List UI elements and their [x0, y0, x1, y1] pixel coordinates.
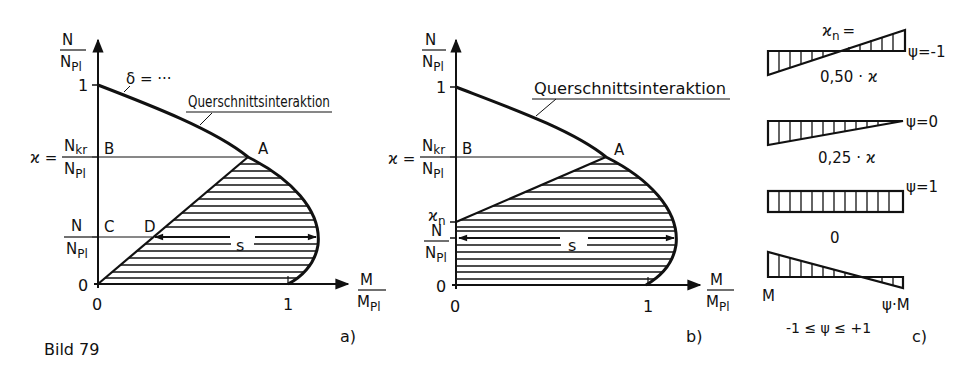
panel-b-n-label-num: N	[431, 222, 442, 240]
panel-b: s Querschnittsinteraktion N NPl 1 0 0 1 …	[388, 31, 734, 346]
point-a-D: D	[144, 218, 156, 236]
panel-a-kappa-lhs: ϰ =	[30, 149, 57, 167]
panel-a-delta-label: δ = ···	[126, 70, 172, 88]
panel-b-interaction-curve	[456, 87, 676, 285]
psi-minus-1-label: ψ=-1	[908, 43, 945, 61]
moment-diagram-psi-1	[768, 191, 903, 212]
panel-a-x-tick-1: 1	[283, 295, 293, 314]
kappa-n-value-1: 0,50 · ϰ	[820, 68, 878, 86]
panel-a-x-label-num: M	[360, 271, 373, 289]
panel-a-x-label-den: MPl	[357, 293, 381, 314]
panel-a-kappa-num: Nkr	[64, 137, 87, 157]
panel-b-y-label-num: N	[425, 31, 436, 49]
kappa-n-label: ϰn=	[822, 22, 855, 43]
panel-b-y-label-den: NPl	[422, 53, 444, 74]
panel-b-label: b)	[686, 327, 702, 346]
figure-caption: Bild 79	[44, 340, 99, 359]
panel-b-kappa-lhs: ϰ =	[388, 150, 415, 168]
panel-b-s-label: s	[568, 236, 576, 255]
psi-1-label: ψ=1	[906, 178, 938, 196]
moment-right-label: ψ·M	[882, 296, 910, 314]
panel-a-n-label-num: N	[71, 217, 82, 235]
panel-c-label: c)	[912, 327, 927, 346]
panel-b-hatching	[450, 164, 700, 279]
kappa-n-value-3: 0	[830, 229, 840, 247]
panel-b-kappa-num: Nkr	[422, 137, 445, 157]
panel-a-label: a)	[340, 327, 356, 346]
point-a-A: A	[258, 140, 269, 158]
panel-b-curve-title: Querschnittsinteraktion	[534, 79, 726, 98]
panel-a-curve-title: Querschnittsinteraktion	[188, 92, 330, 111]
panel-b-x-tick-0: 0	[450, 297, 460, 316]
panel-a: s Querschnittsinteraktion δ = ··· N NPl …	[30, 31, 386, 346]
panel-c: ϰn= ψ=-1 0,50 · ϰ ψ=0 0,25 · ϰ	[762, 22, 945, 346]
panel-b-y-tick-1: 1	[436, 78, 446, 97]
panel-a-s-label: s	[236, 236, 244, 255]
panel-b-x-label-den: MPl	[706, 293, 730, 314]
point-a-B: B	[104, 140, 114, 158]
panel-a-y-label-num: N	[62, 31, 73, 49]
point-b-B: B	[462, 140, 472, 158]
moment-diagram-general	[768, 252, 903, 288]
moment-diagram-psi-0	[768, 121, 903, 145]
panel-b-kn-a-line	[456, 157, 606, 222]
panel-b-x-tick-1: 1	[643, 297, 653, 316]
moment-left-label: M	[762, 287, 775, 305]
panel-b-kappa-den: NPl	[422, 160, 444, 181]
panel-b-y-tick-0: 0	[436, 277, 446, 296]
point-a-C: C	[104, 218, 114, 236]
panel-a-kappa-den: NPl	[64, 160, 86, 181]
point-b-A: A	[614, 141, 625, 159]
panel-a-y-label-den: NPl	[60, 53, 82, 74]
panel-b-x-label-num: M	[710, 271, 723, 289]
panel-a-n-label-den: NPl	[66, 240, 88, 261]
figure-canvas: s Querschnittsinteraktion δ = ··· N NPl …	[0, 0, 972, 377]
panel-a-hatching	[90, 164, 340, 278]
panel-b-n-label-den: NPl	[425, 244, 447, 265]
panel-a-x-tick-0: 0	[92, 295, 102, 314]
panel-a-y-tick-1: 1	[78, 76, 88, 95]
kappa-n-value-2: 0,25 · ϰ	[818, 149, 876, 167]
panel-a-y-tick-0: 0	[78, 276, 88, 295]
psi-range-label: -1 ≤ ψ ≤ +1	[786, 320, 871, 336]
psi-0-label: ψ=0	[906, 113, 938, 131]
